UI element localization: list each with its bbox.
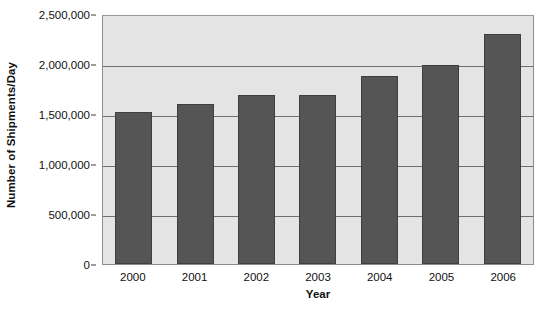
y-tick-label: 500,000	[48, 209, 90, 221]
y-axis-tick-labels: 0 500,000 1,000,000 1,500,000 2,000,000 …	[22, 15, 96, 265]
bar-chart: Number of Shipments/Day 0 500,000 1,000,…	[0, 0, 548, 314]
x-tick-label: 2000	[102, 268, 164, 288]
x-tick-label: 2003	[287, 268, 349, 288]
y-tick-mark	[91, 115, 96, 116]
bar-slot	[226, 16, 287, 264]
x-axis-tick-labels: 2000 2001 2002 2003 2004 2005 2006	[102, 268, 534, 288]
y-tick-label: 2,500,000	[39, 9, 90, 21]
plot-area	[102, 15, 534, 265]
y-tick-mark	[91, 65, 96, 66]
bar[interactable]	[422, 65, 459, 264]
bar-slot	[410, 16, 471, 264]
x-tick-label: 2005	[411, 268, 473, 288]
y-tick-label: 1,000,000	[39, 159, 90, 171]
y-tick-label: 1,500,000	[39, 109, 90, 121]
x-tick-label: 2001	[164, 268, 226, 288]
y-axis-title: Number of Shipments/Day	[0, 0, 22, 270]
x-tick-label: 2006	[472, 268, 534, 288]
bar-slot	[287, 16, 348, 264]
y-tick-mark	[91, 265, 96, 266]
bar[interactable]	[484, 34, 521, 264]
bar-slot	[472, 16, 533, 264]
bar[interactable]	[115, 112, 152, 264]
y-tick-mark	[91, 215, 96, 216]
bar[interactable]	[177, 104, 214, 264]
bar[interactable]	[299, 95, 336, 264]
plot-inner	[103, 16, 533, 264]
x-tick-label: 2002	[225, 268, 287, 288]
bar-slot	[103, 16, 164, 264]
x-axis-title: Year	[102, 288, 534, 300]
y-tick-label: 2,000,000	[39, 59, 90, 71]
bars-layer	[103, 16, 533, 264]
y-tick-label: 0	[84, 259, 90, 271]
bar[interactable]	[238, 95, 275, 264]
y-tick-mark	[91, 165, 96, 166]
bar-slot	[164, 16, 225, 264]
y-tick-mark	[91, 15, 96, 16]
bar-slot	[349, 16, 410, 264]
bar[interactable]	[361, 76, 398, 264]
x-tick-label: 2004	[349, 268, 411, 288]
y-axis-title-text: Number of Shipments/Day	[5, 62, 17, 208]
